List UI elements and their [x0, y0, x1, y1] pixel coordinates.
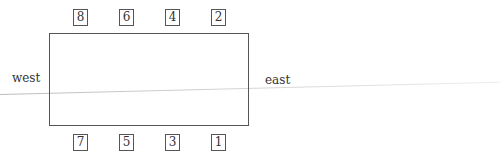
seat-5: 5 — [119, 134, 134, 151]
seat-2: 2 — [211, 9, 226, 26]
seat-1: 1 — [211, 134, 226, 151]
seat-6: 6 — [119, 9, 134, 26]
east-label: east — [265, 73, 290, 87]
seat-3: 3 — [165, 134, 180, 151]
seat-7: 7 — [73, 134, 88, 151]
seat-4: 4 — [165, 9, 180, 26]
seat-8: 8 — [73, 9, 88, 26]
table-rectangle — [49, 33, 249, 126]
west-label: west — [12, 71, 40, 85]
